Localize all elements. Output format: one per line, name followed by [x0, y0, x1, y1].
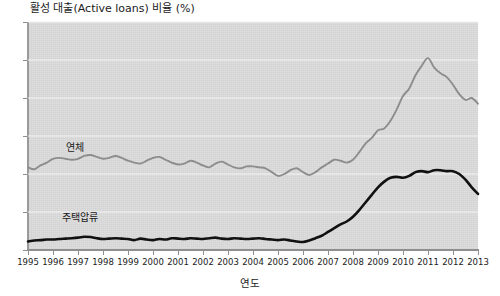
x-axis-tick-mark [403, 250, 404, 255]
x-axis-tick-mark [353, 250, 354, 255]
gridlines [28, 22, 478, 212]
x-axis-tick-mark [228, 250, 229, 255]
y-axis-tick-mark [23, 174, 27, 175]
line-series-delinquency [28, 58, 478, 176]
x-axis-tick-label: 2004 [242, 257, 264, 267]
x-axis-title: 연도 [0, 275, 500, 290]
y-axis-tick-mark [23, 22, 27, 23]
series-label-delinquency: 연체 [66, 139, 84, 154]
x-axis-tick-mark [378, 250, 379, 255]
x-axis-tick-label: 1995 [17, 257, 39, 267]
x-axis-tick-label: 2010 [392, 257, 414, 267]
x-axis-tick-mark [128, 250, 129, 255]
x-axis-tick-label: 2003 [217, 257, 239, 267]
y-axis-tick-mark [23, 136, 27, 137]
x-axis-tick-mark [153, 250, 154, 255]
x-axis-tick-label: 2007 [317, 257, 339, 267]
x-axis-tick-mark [453, 250, 454, 255]
x-axis-tick-label: 2008 [342, 257, 364, 267]
x-axis-tick-label: 2002 [192, 257, 214, 267]
y-axis-tick-mark [23, 60, 27, 61]
x-axis-tick-mark [178, 250, 179, 255]
x-axis-tick-label: 2006 [292, 257, 314, 267]
y-axis-tick-mark [23, 212, 27, 213]
x-axis-tick-mark [28, 250, 29, 255]
x-axis-tick-label: 2001 [167, 257, 189, 267]
x-axis-tick-mark [328, 250, 329, 255]
x-axis-tick-label: 2013 [467, 257, 489, 267]
x-axis-tick-mark [278, 250, 279, 255]
x-axis-tick-label: 1998 [92, 257, 114, 267]
x-axis-tick-mark [203, 250, 204, 255]
x-axis-tick-label: 1997 [67, 257, 89, 267]
x-axis-tick-label: 2009 [367, 257, 389, 267]
x-axis-tick-label: 1996 [42, 257, 64, 267]
x-axis-tick-label: 2011 [417, 257, 439, 267]
line-series-foreclosure [28, 170, 478, 242]
x-axis-tick-label: 1999 [117, 257, 139, 267]
x-axis-tick-label: 2000 [142, 257, 164, 267]
x-axis-tick-mark [53, 250, 54, 255]
x-axis-tick-label: 2012 [442, 257, 464, 267]
y-axis-tick-mark [23, 98, 27, 99]
x-axis-tick-label: 2005 [267, 257, 289, 267]
x-axis-tick-mark [303, 250, 304, 255]
x-axis-tick-mark [253, 250, 254, 255]
series-label-foreclosure: 주택압류 [62, 209, 98, 224]
x-axis-tick-mark [103, 250, 104, 255]
x-axis-tick-mark [478, 250, 479, 255]
x-axis-tick-mark [78, 250, 79, 255]
chart-container: 활성 대출(Active loans) 비율 (%) 024681012 199… [0, 0, 500, 296]
x-axis-tick-mark [428, 250, 429, 255]
y-axis-tick-mark [23, 250, 27, 251]
